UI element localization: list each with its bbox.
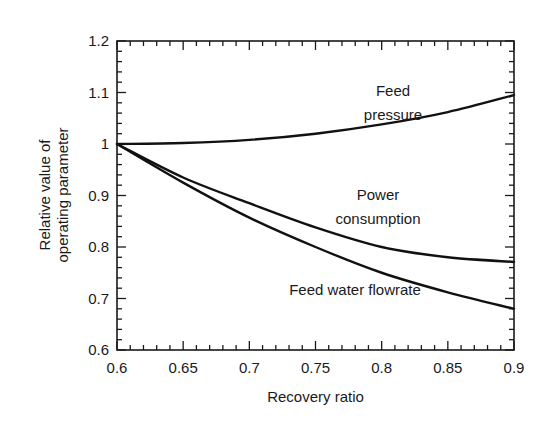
x-tick-label: 0.65 <box>169 359 198 376</box>
annotation-feed-pressure: Feed <box>376 82 410 99</box>
series-line-feed-pressure <box>117 95 514 144</box>
y-tick-label: 1.2 <box>88 32 109 49</box>
plot-frame <box>117 41 514 350</box>
x-tick-label: 0.75 <box>301 359 330 376</box>
annotation-feed-pressure: pressure <box>364 106 422 123</box>
line-chart: 0.60.650.70.750.80.850.90.60.70.80.911.1… <box>0 0 548 436</box>
x-tick-label: 0.6 <box>107 359 128 376</box>
annotation-feed-water-flowrate: Feed water flowrate <box>289 281 421 298</box>
x-tick-label: 0.9 <box>504 359 525 376</box>
x-tick-label: 0.8 <box>371 359 392 376</box>
data-series <box>117 95 514 309</box>
y-tick-label: 0.9 <box>88 187 109 204</box>
tick-labels: 0.60.650.70.750.80.850.90.60.70.80.911.1… <box>88 32 524 376</box>
y-tick-label: 0.7 <box>88 290 109 307</box>
x-tick-label: 0.85 <box>433 359 462 376</box>
y-tick-label: 0.6 <box>88 341 109 358</box>
annotation-power-consumption: consumption <box>335 210 420 227</box>
x-tick-label: 0.7 <box>239 359 260 376</box>
series-line-power-consumption <box>117 144 514 262</box>
y-axis-label: Relative value ofoperating parameter <box>36 127 71 262</box>
series-annotations: FeedpressurePowerconsumptionFeed water f… <box>289 82 422 298</box>
y-axis-label-line: operating parameter <box>54 127 71 262</box>
annotation-power-consumption: Power <box>357 186 400 203</box>
y-axis-label-line: Relative value of <box>36 139 53 251</box>
y-tick-label: 1.1 <box>88 84 109 101</box>
axis-ticks <box>117 41 514 350</box>
y-tick-label: 0.8 <box>88 238 109 255</box>
x-axis-label: Recovery ratio <box>267 388 364 405</box>
y-tick-label: 1 <box>101 135 109 152</box>
